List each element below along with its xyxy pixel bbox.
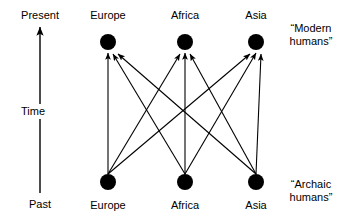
label-archaic-europe: Europe <box>90 199 125 212</box>
node-modern-asia[interactable] <box>248 34 264 50</box>
label-archaic-asia: Asia <box>245 199 266 212</box>
label-modern-europe: Europe <box>90 9 125 22</box>
edge-europe-to-africa <box>108 54 180 174</box>
node-archaic-europe[interactable] <box>100 174 116 190</box>
edge-africa-to-europe <box>113 54 185 174</box>
group-label-archaic-humans: “Archaic humans” <box>290 178 333 204</box>
edge-africa-to-asia <box>185 53 256 174</box>
migration-edges <box>108 53 261 174</box>
diagram-canvas: Present Time Past Europe Africa Asia Eur… <box>0 0 355 224</box>
modern-nodes <box>100 34 264 50</box>
label-modern-asia: Asia <box>245 9 266 22</box>
edge-europe-to-asia <box>108 54 250 174</box>
group-label-modern-humans: “Modern humans” <box>290 22 333 48</box>
archaic-nodes <box>100 174 264 190</box>
edge-asia-to-africa <box>190 54 256 174</box>
edge-asia-to-asia <box>256 54 261 174</box>
node-modern-europe[interactable] <box>100 34 116 50</box>
node-archaic-asia[interactable] <box>248 174 264 190</box>
node-archaic-africa[interactable] <box>177 174 193 190</box>
time-axis-past-label: Past <box>29 198 51 211</box>
label-archaic-africa: Africa <box>171 199 199 212</box>
node-modern-africa[interactable] <box>177 34 193 50</box>
group-label-archaic-humans-line2: humans” <box>290 191 333 204</box>
group-label-archaic-humans-line1: “Archaic <box>290 178 333 191</box>
time-axis-time-label: Time <box>18 104 48 119</box>
time-axis-present-label: Present <box>21 9 59 22</box>
label-modern-africa: Africa <box>171 9 199 22</box>
group-label-modern-humans-line2: humans” <box>290 35 333 48</box>
edge-asia-to-europe <box>118 54 256 174</box>
group-label-modern-humans-line1: “Modern <box>290 22 333 35</box>
